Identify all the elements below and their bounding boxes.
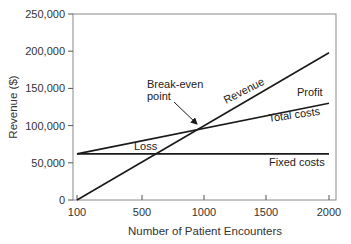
break-even-chart: 050,000100,000150,000200,000250,000 1005…	[0, 0, 351, 244]
x-tick-label: 500	[133, 206, 151, 218]
y-tick-label: 100,000	[25, 120, 65, 132]
y-tick-label: 150,000	[25, 82, 65, 94]
plot-frame	[73, 14, 336, 200]
annotation-fixed-costs: Fixed costs	[269, 156, 325, 168]
annotation-profit: Profit	[297, 86, 323, 98]
break-even-arrow	[174, 102, 197, 124]
annotation-loss: Loss	[134, 140, 158, 152]
x-tick-label: 1500	[254, 206, 278, 218]
y-axis-title: Revenue ($)	[7, 75, 19, 138]
annotation-break-even-line1: Break-even	[147, 78, 203, 90]
annotation-total-costs: Total costs	[268, 105, 322, 124]
x-tick-label: 100	[68, 206, 86, 218]
y-tick-label: 50,000	[31, 157, 65, 169]
y-axis: 050,000100,000150,000200,000250,000	[25, 8, 73, 206]
annotation-break-even-line2: point	[147, 90, 171, 102]
annotation-revenue: Revenue	[221, 75, 266, 106]
x-tick-label: 2000	[317, 206, 341, 218]
y-tick-label: 200,000	[25, 45, 65, 57]
series-line-revenue	[77, 53, 329, 200]
series-group	[77, 53, 329, 200]
y-tick-label: 0	[59, 194, 65, 206]
x-tick-label: 1000	[192, 206, 216, 218]
y-tick-label: 250,000	[25, 8, 65, 20]
x-axis-title: Number of Patient Encounters	[128, 225, 282, 237]
x-axis: 100500100015002000	[68, 195, 341, 218]
